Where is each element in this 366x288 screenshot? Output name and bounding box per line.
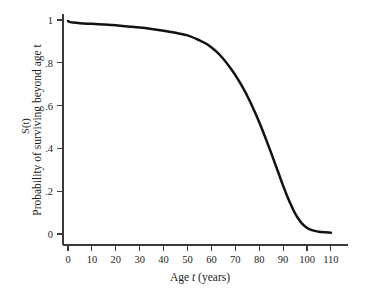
x-tick-label: 70 bbox=[230, 254, 241, 265]
x-tick-label: 60 bbox=[206, 254, 217, 265]
x-tick-label: 30 bbox=[134, 254, 145, 265]
survival-curve-line bbox=[68, 21, 331, 233]
y-tick-label: .8 bbox=[45, 58, 53, 69]
x-tick-label: 110 bbox=[323, 254, 338, 265]
x-axis-title-suffix: (years) bbox=[195, 271, 230, 284]
y-axis-title-long-variable: t bbox=[31, 43, 43, 47]
x-tick-label: 90 bbox=[278, 254, 289, 265]
chart-canvas: 1 .8 .6 .4 .2 0 0 10 20 30 bbox=[0, 0, 366, 288]
y-tick-label: .2 bbox=[45, 186, 53, 197]
x-tick-label: 40 bbox=[158, 254, 169, 265]
y-tick-label: .4 bbox=[45, 143, 54, 154]
x-tick-label: 50 bbox=[182, 254, 193, 265]
y-tick-label: 0 bbox=[48, 229, 53, 240]
x-axis-tick-labels: 0 10 20 30 40 50 60 70 80 90 100 110 bbox=[65, 254, 338, 265]
y-axis-tick-labels: 1 .8 .6 .4 .2 0 bbox=[45, 15, 54, 240]
x-axis-title-prefix: Age bbox=[170, 271, 192, 284]
y-axis-ticks bbox=[57, 20, 63, 234]
y-tick-label: .6 bbox=[45, 101, 53, 112]
x-tick-label: 0 bbox=[65, 254, 70, 265]
x-axis-ticks bbox=[68, 245, 331, 251]
x-tick-label: 80 bbox=[254, 254, 265, 265]
x-axis-title: Age t (years) bbox=[170, 271, 230, 284]
y-tick-label: 1 bbox=[48, 15, 53, 26]
x-tick-label: 20 bbox=[111, 254, 122, 265]
survival-curve-figure: 1 .8 .6 .4 .2 0 0 10 20 30 bbox=[0, 0, 366, 288]
x-tick-label: 10 bbox=[87, 254, 98, 265]
y-axis-title-long: Probability of surviving beyond age t bbox=[31, 43, 44, 215]
y-axis-title-long-prefix: Probability of surviving beyond age bbox=[31, 47, 44, 215]
x-tick-label: 100 bbox=[299, 254, 315, 265]
